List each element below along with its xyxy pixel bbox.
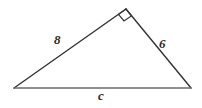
hypotenuse-length-label: c: [98, 89, 104, 102]
right-triangle-figure: 8 6 c: [0, 0, 202, 108]
right-angle-marker-icon: [119, 9, 132, 21]
leg-b-length-label: 6: [159, 37, 166, 50]
leg-a-length-label: 8: [54, 33, 61, 46]
triangle-leg-a-line: [14, 9, 126, 88]
